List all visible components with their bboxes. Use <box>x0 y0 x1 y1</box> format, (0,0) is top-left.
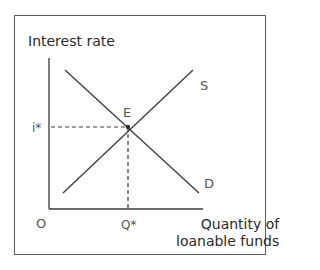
x-axis-title-line2: loanable funds <box>176 233 279 250</box>
equilibrium-price-label: i* <box>32 122 41 134</box>
supply-curve <box>63 70 193 193</box>
equilibrium-quantity-label: Q* <box>121 219 136 231</box>
demand-curve <box>65 70 199 193</box>
y-axis-title: Interest rate <box>28 34 115 48</box>
equilibrium-point <box>126 125 130 129</box>
demand-label: D <box>204 177 214 190</box>
x-axis-title-line1: Quantity of <box>176 216 279 233</box>
supply-label: S <box>200 79 208 92</box>
origin-label: O <box>36 217 46 230</box>
x-axis-title: Quantity of loanable funds <box>176 216 279 250</box>
equilibrium-label: E <box>123 106 131 119</box>
